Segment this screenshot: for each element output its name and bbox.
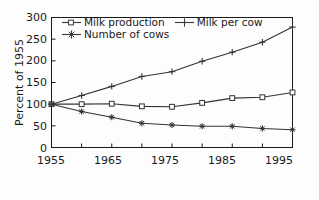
open-square-marker-icon <box>62 17 81 28</box>
legend-row: Number of cows <box>62 28 273 40</box>
legend-label: Milk production <box>84 16 165 28</box>
legend-label: Milk per cow <box>197 16 263 28</box>
legend-entry-milk-production: Milk production <box>62 16 165 28</box>
chart-legend: Milk production Milk per cow Number of c… <box>62 16 273 40</box>
legend-entry-milk-per-cow: Milk per cow <box>175 16 263 28</box>
legend-label: Number of cows <box>84 28 169 40</box>
chart-figure: Percent of 1955 300 250 200 150 100 50 0… <box>0 0 319 200</box>
star-marker-icon <box>62 29 81 40</box>
legend-row: Milk production Milk per cow <box>62 16 273 28</box>
y-tick-marks <box>52 18 56 148</box>
plus-marker-icon <box>175 17 194 28</box>
legend-entry-number-of-cows: Number of cows <box>62 28 169 40</box>
series-milk-production <box>49 90 295 109</box>
data-series-layer <box>48 24 295 133</box>
x-tick-marks <box>52 144 293 148</box>
